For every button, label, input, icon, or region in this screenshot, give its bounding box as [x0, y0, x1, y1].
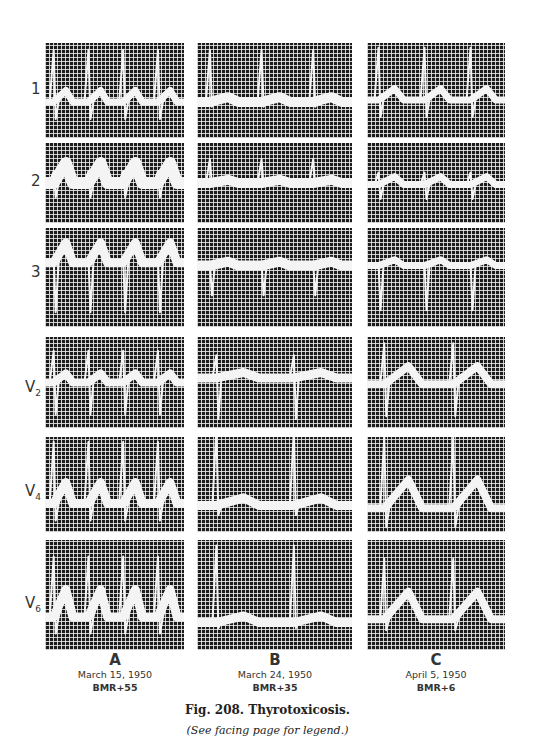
ecg-trace: [197, 228, 352, 327]
ecg-panel-3-a: [45, 228, 184, 327]
column-label-b: B March 24, 1950 BMR+35: [195, 652, 355, 694]
column-date: April 5, 1950: [356, 668, 516, 681]
lead-label-1: 1: [31, 80, 41, 98]
ecg-trace: [197, 437, 352, 532]
ecg-trace: [45, 143, 184, 223]
column-label-a: A March 15, 1950 BMR+55: [35, 652, 195, 694]
column-bmr: BMR+35: [195, 681, 355, 694]
column-label-c: C April 5, 1950 BMR+6: [356, 652, 516, 694]
ecg-panel-v4-a: [45, 437, 184, 532]
ecg-trace: [45, 43, 184, 138]
ecg-panel-v2-a: [45, 337, 184, 428]
ecg-panel-v6-b: [197, 540, 352, 650]
ecg-panel-1-c: [367, 43, 505, 138]
column-letter: B: [195, 652, 355, 668]
lead-label-v6: V6: [25, 594, 41, 614]
lead-label-v2: V2: [25, 378, 41, 398]
ecg-panel-1-b: [197, 43, 352, 138]
ecg-trace: [197, 540, 352, 650]
ecg-panel-3-b: [197, 228, 352, 327]
ecg-trace: [197, 43, 352, 138]
ecg-panel-v2-b: [197, 337, 352, 428]
ecg-trace: [45, 437, 184, 532]
lead-label-v4: V4: [25, 482, 41, 502]
ecg-trace: [45, 228, 184, 327]
column-bmr: BMR+55: [35, 681, 195, 694]
ecg-trace: [197, 337, 352, 428]
ecg-panel-2-b: [197, 143, 352, 223]
ecg-panel-v4-b: [197, 437, 352, 532]
ecg-panel-v2-c: [367, 337, 505, 428]
column-letter: C: [356, 652, 516, 668]
ecg-panel-v6-a: [45, 540, 184, 650]
ecg-trace: [367, 143, 505, 223]
ecg-panel-3-c: [367, 228, 505, 327]
ecg-trace: [367, 228, 505, 327]
figure-note: (See facing page for legend.): [0, 724, 535, 737]
ecg-trace: [367, 437, 505, 532]
column-date: March 15, 1950: [35, 668, 195, 681]
column-letter: A: [35, 652, 195, 668]
lead-label-3: 3: [31, 263, 41, 281]
ecg-trace: [45, 337, 184, 428]
ecg-panel-v4-c: [367, 437, 505, 532]
ecg-panel-2-c: [367, 143, 505, 223]
lead-label-2: 2: [31, 172, 41, 190]
ecg-trace: [367, 540, 505, 650]
ecg-panel-2-a: [45, 143, 184, 223]
ecg-trace: [45, 540, 184, 650]
ecg-trace: [197, 143, 352, 223]
ecg-trace: [367, 337, 505, 428]
column-date: March 24, 1950: [195, 668, 355, 681]
ecg-trace: [367, 43, 505, 138]
figure-caption: Fig. 208. Thyrotoxicosis.: [0, 703, 535, 717]
column-bmr: BMR+6: [356, 681, 516, 694]
ecg-panel-v6-c: [367, 540, 505, 650]
ecg-panel-1-a: [45, 43, 184, 138]
